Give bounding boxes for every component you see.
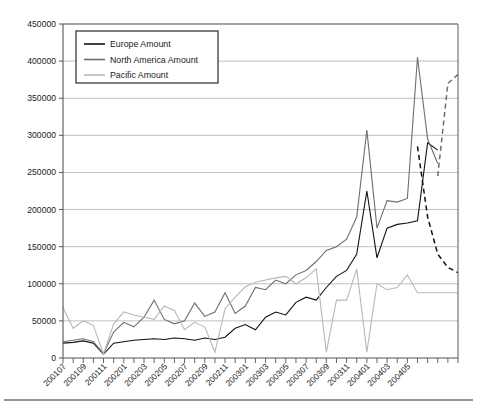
- y-tick-label: 50000: [32, 316, 56, 326]
- y-tick-label: 200000: [27, 205, 56, 215]
- chart-container: 0500001000001500002000002500003000003500…: [0, 0, 477, 411]
- y-tick-label: 150000: [27, 242, 56, 252]
- legend-label: Pacific Amount: [110, 70, 169, 80]
- chart-legend: Europe AmountNorth America AmountPacific…: [76, 31, 218, 83]
- y-tick-label: 450000: [27, 19, 56, 29]
- y-tick-label: 250000: [27, 167, 56, 177]
- y-tick-label: 100000: [27, 279, 56, 289]
- legend-label: Europe Amount: [110, 39, 171, 49]
- y-tick-label: 350000: [27, 93, 56, 103]
- legend-label: North America Amount: [110, 55, 199, 65]
- y-tick-label: 400000: [27, 56, 56, 66]
- y-tick-label: 300000: [27, 130, 56, 140]
- line-chart: 0500001000001500002000002500003000003500…: [0, 0, 477, 411]
- y-tick-label: 0: [51, 353, 56, 363]
